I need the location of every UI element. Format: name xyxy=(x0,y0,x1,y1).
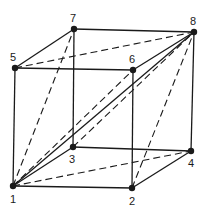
node-3 xyxy=(70,144,76,150)
node-7 xyxy=(71,26,77,32)
node-label-7: 7 xyxy=(70,12,76,24)
dashed-edge-2-8 xyxy=(132,32,194,188)
node-5 xyxy=(12,65,18,71)
node-label-4: 4 xyxy=(188,157,194,169)
edge-5-7 xyxy=(15,29,74,68)
edge-7-3 xyxy=(73,29,74,147)
dashed-edge-3-8 xyxy=(73,32,194,147)
dashed-edge-1-7 xyxy=(13,29,74,186)
edge-4-8 xyxy=(191,32,194,151)
node-2 xyxy=(129,185,135,191)
edge-2-4 xyxy=(132,151,191,188)
node-label-5: 5 xyxy=(10,51,16,63)
edge-2-6 xyxy=(132,70,133,188)
cube-diagram: 12345678 xyxy=(0,0,206,213)
node-label-2: 2 xyxy=(129,195,135,207)
edge-1-8 xyxy=(13,32,194,186)
edge-7-8 xyxy=(74,29,194,32)
node-6 xyxy=(130,67,136,73)
node-4 xyxy=(188,148,194,154)
node-label-8: 8 xyxy=(190,15,196,27)
node-label-3: 3 xyxy=(69,153,75,165)
node-1 xyxy=(10,183,16,189)
node-8 xyxy=(191,29,197,35)
edge-6-8 xyxy=(133,32,194,70)
edge-1-3 xyxy=(13,147,73,186)
edge-1-2 xyxy=(13,186,132,188)
solid-edges xyxy=(13,29,194,188)
node-label-1: 1 xyxy=(10,193,16,205)
edge-1-5 xyxy=(13,68,15,186)
node-label-6: 6 xyxy=(129,53,135,65)
